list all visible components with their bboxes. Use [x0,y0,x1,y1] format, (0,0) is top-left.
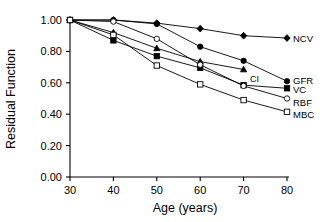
y-tick-label: 0.20 [41,140,62,152]
x-tick-label: 70 [237,184,249,196]
chart-figure: 0.000.200.400.600.801.00 304050607080 NC… [0,0,335,222]
data-point-vc-80 [284,86,289,91]
data-point-mbc-70 [241,97,246,102]
data-point-gfr-80 [284,79,289,84]
series-line-rbf [70,20,287,99]
data-point-gfr-60 [198,44,203,49]
data-point-rbf-50 [154,36,159,41]
series-mbc [67,17,289,114]
y-axis-title: Residual Function [4,49,18,149]
data-point-mbc-40 [111,32,116,37]
data-point-ncv-70 [240,32,246,39]
y-tick-label: 0.60 [41,77,62,89]
data-series-group [67,17,290,115]
data-point-rbf-80 [284,96,289,101]
series-rbf [67,17,289,101]
y-tick-label: 1.00 [41,14,62,26]
data-point-rbf-70 [241,83,246,88]
series-label-mbc: MBC [293,109,314,120]
x-tick-label: 40 [107,184,119,196]
data-point-vc-50 [154,53,159,58]
x-axis-ticks [70,177,287,181]
x-tick-label: 80 [281,184,293,196]
data-point-rbf-60 [198,62,203,67]
data-point-mbc-30 [67,17,72,22]
series-label-ncv: NCV [293,33,314,44]
y-axis-ticks [66,20,70,177]
data-point-rbf-40 [111,19,116,24]
data-point-gfr-50 [154,21,159,26]
data-point-vc-40 [111,38,116,43]
y-tick-label: 0.00 [41,171,62,183]
y-tick-label: 0.40 [41,108,62,120]
data-point-mbc-80 [284,109,289,114]
x-tick-label: 50 [151,184,163,196]
y-axis-tick-labels: 0.000.200.400.600.801.00 [41,14,62,183]
series-label-ci: CI [250,74,259,84]
x-axis-tick-labels: 304050607080 [64,184,293,196]
x-axis-title: Age (years) [153,201,218,215]
x-tick-label: 60 [194,184,206,196]
data-point-mbc-60 [198,82,203,87]
y-tick-label: 0.80 [41,45,62,57]
data-point-mbc-50 [154,63,159,68]
data-point-ncv-60 [197,25,203,32]
x-tick-label: 30 [64,184,76,196]
series-labels-group: NCVGFRCIVCRBFMBC [250,33,314,121]
series-label-vc: VC [293,84,306,95]
data-point-gfr-70 [241,58,246,63]
data-point-ncv-80 [284,35,290,42]
residual-function-line-chart: 0.000.200.400.600.801.00 304050607080 NC… [0,0,335,222]
series-label-rbf: RBF [293,97,312,108]
